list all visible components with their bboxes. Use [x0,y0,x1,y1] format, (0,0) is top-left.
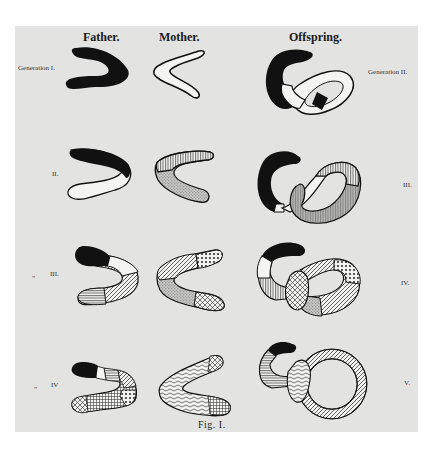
father-gen4-chromosome [72,362,137,413]
offspring-gen3-chromosome [258,151,361,223]
offspring-gen4-chromosome [257,243,360,317]
father-gen2-chromosome [68,149,131,200]
offspring-gen2-chromosome [266,50,353,115]
mother-gen3-chromosome [157,250,224,311]
father-gen3-chromosome [75,246,138,305]
offspring-gen5-chromosome [259,342,367,419]
mother-gen2-chromosome [155,151,213,202]
father-gen1-chromosome [66,47,129,89]
chromosome-diagram [0,0,425,452]
mother-gen1-chromosome [154,51,205,98]
mother-gen4-chromosome [159,355,230,415]
